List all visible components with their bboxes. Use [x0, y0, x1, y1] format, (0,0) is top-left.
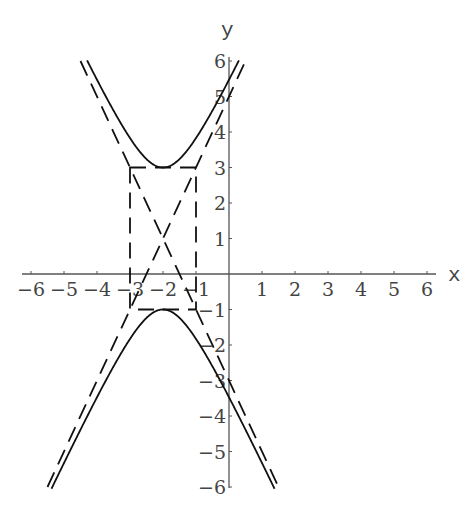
x-tick-label: 3 — [322, 278, 334, 300]
y-tick-label: 4 — [214, 121, 226, 143]
y-tick-label: 2 — [214, 192, 226, 214]
y-axis-label: y — [221, 19, 234, 42]
y-tick-label: −3 — [198, 370, 226, 392]
x-tick-label: 5 — [388, 278, 400, 300]
hyperbola-upper-branch — [87, 60, 239, 167]
x-tick-label: −6 — [17, 278, 45, 300]
y-tick-label: −6 — [198, 476, 226, 498]
y-tick-label: 1 — [214, 228, 226, 250]
y-tick-label: −4 — [198, 405, 226, 427]
hyperbola-lower-branch — [51, 310, 274, 489]
x-axis-label: x — [448, 264, 461, 287]
x-tick-label: −2 — [149, 278, 177, 300]
y-tick-label: 6 — [214, 50, 226, 72]
x-tick-label: −4 — [83, 278, 111, 300]
y-tick-label: −5 — [198, 441, 226, 463]
x-tick-label: 2 — [289, 278, 301, 300]
x-tick-label: −5 — [50, 278, 78, 300]
x-tick-label: 6 — [421, 278, 433, 300]
x-tick-label: 4 — [355, 278, 367, 300]
y-tick-label: 3 — [214, 157, 226, 179]
y-tick-label: −1 — [198, 299, 226, 321]
hyperbola-plot: −6−5−4−3−2−1123456−6−5−4−3−2−1123456 x y — [0, 0, 473, 509]
x-tick-label: 1 — [256, 278, 268, 300]
